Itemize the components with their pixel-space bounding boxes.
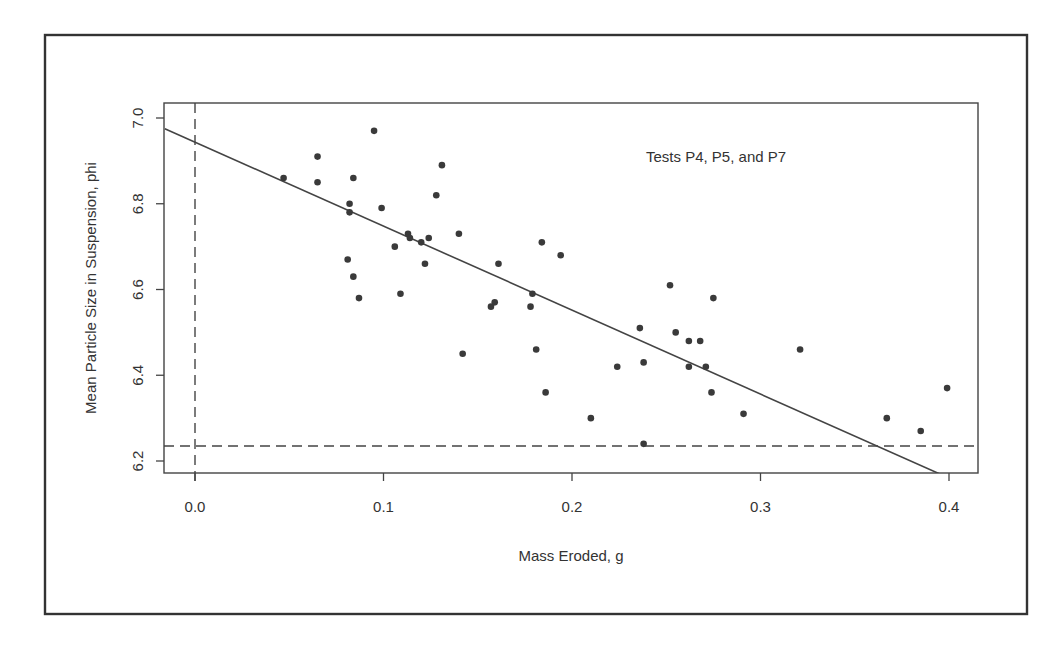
data-point xyxy=(557,252,564,259)
x-tick-label: 0.1 xyxy=(373,498,394,515)
x-tick-label: 0.3 xyxy=(750,498,771,515)
data-point xyxy=(418,239,425,246)
data-point xyxy=(350,175,357,182)
plot-area: 0.00.10.20.30.46.26.46.66.87.0 xyxy=(129,103,978,515)
data-point xyxy=(614,363,621,370)
data-point xyxy=(344,256,351,263)
y-axis-label: Mean Particle Size in Suspension, phi xyxy=(82,162,99,414)
data-point xyxy=(529,290,536,297)
regression-line xyxy=(165,129,940,474)
data-point xyxy=(378,205,385,212)
data-point xyxy=(356,295,363,302)
data-point xyxy=(350,273,357,280)
data-point xyxy=(491,299,498,306)
data-point xyxy=(422,260,429,267)
data-point xyxy=(686,338,693,345)
y-tick-label: 6.2 xyxy=(129,451,146,472)
data-point xyxy=(883,415,890,422)
data-point xyxy=(533,346,540,353)
y-tick-label: 6.8 xyxy=(129,193,146,214)
data-point xyxy=(407,235,414,242)
data-point xyxy=(459,351,466,358)
data-point xyxy=(392,243,399,250)
data-point xyxy=(495,260,502,267)
y-tick-label: 6.4 xyxy=(129,365,146,386)
data-point xyxy=(640,441,647,448)
data-point xyxy=(944,385,951,392)
data-point xyxy=(346,209,353,216)
plot-border xyxy=(164,103,978,473)
x-tick-label: 0.0 xyxy=(185,498,206,515)
x-axis-label: Mass Eroded, g xyxy=(518,547,623,564)
figure-frame xyxy=(45,35,1027,614)
data-point xyxy=(686,363,693,370)
data-point xyxy=(439,162,446,169)
y-tick-label: 7.0 xyxy=(129,108,146,129)
data-point xyxy=(740,411,747,418)
data-point xyxy=(539,239,546,246)
data-point xyxy=(425,235,432,242)
data-point xyxy=(527,303,534,310)
data-point xyxy=(637,325,644,332)
data-point xyxy=(456,230,463,237)
data-point xyxy=(371,128,378,135)
data-point xyxy=(797,346,804,353)
data-point xyxy=(917,428,924,435)
data-point xyxy=(397,290,404,297)
data-point xyxy=(703,363,710,370)
data-point xyxy=(697,338,704,345)
data-point xyxy=(280,175,287,182)
data-point xyxy=(708,389,715,396)
data-point xyxy=(314,179,321,186)
data-point xyxy=(640,359,647,366)
data-point xyxy=(433,192,440,199)
data-point xyxy=(542,389,549,396)
y-tick-label: 6.6 xyxy=(129,279,146,300)
data-point xyxy=(346,200,353,207)
x-tick-label: 0.2 xyxy=(562,498,583,515)
data-point xyxy=(588,415,595,422)
x-tick-label: 0.4 xyxy=(939,498,960,515)
data-point xyxy=(314,153,321,160)
annotation-label: Tests P4, P5, and P7 xyxy=(646,148,786,165)
data-point xyxy=(710,295,717,302)
data-point xyxy=(672,329,679,336)
chart-canvas: 0.00.10.20.30.46.26.46.66.87.0 Tests P4,… xyxy=(0,0,1064,656)
data-point xyxy=(667,282,674,289)
